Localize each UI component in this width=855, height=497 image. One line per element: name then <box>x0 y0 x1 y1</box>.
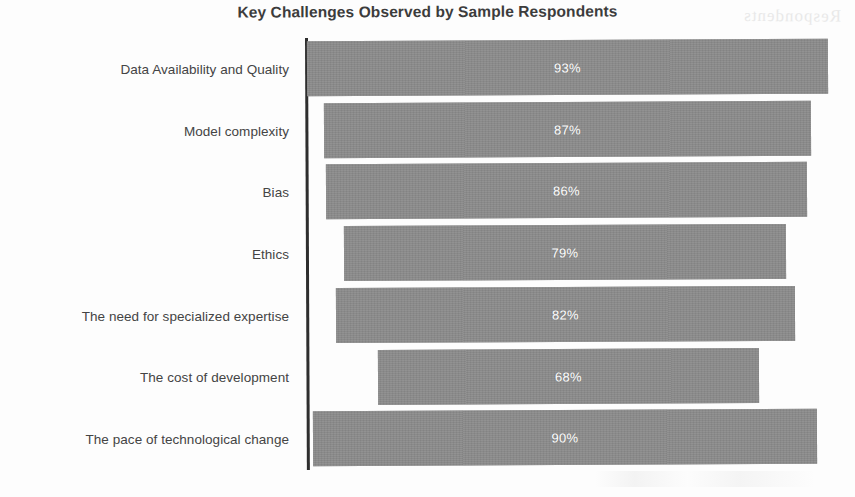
bar: 86% <box>326 162 807 219</box>
bar-rows: Data Availability and Quality93%Model co… <box>0 38 855 470</box>
bar-value-label: 82% <box>552 307 579 322</box>
bar: 87% <box>324 101 811 158</box>
bar: 93% <box>307 39 828 97</box>
bar: 82% <box>336 286 795 343</box>
bar-value-label: 93% <box>554 60 581 75</box>
category-label: The need for specialized expertise <box>82 308 289 323</box>
plot-area: Data Availability and Quality93%Model co… <box>0 30 855 480</box>
bar-row: Bias86% <box>0 161 855 223</box>
category-label: The pace of technological change <box>86 432 290 447</box>
bar-value-label: 90% <box>552 430 579 445</box>
bar-row: Model complexity87% <box>0 100 855 162</box>
bar-row: Ethics79% <box>0 223 855 285</box>
category-label: Model complexity <box>184 123 289 138</box>
bar-row: The need for specialized expertise82% <box>0 285 855 347</box>
bar-row: The cost of development68% <box>0 347 855 409</box>
bar-value-label: 68% <box>555 368 582 383</box>
bar: 90% <box>313 409 817 466</box>
category-label: Bias <box>263 185 289 200</box>
bar-value-label: 86% <box>553 183 580 198</box>
bar-value-label: 79% <box>552 245 579 260</box>
bar-value-label: 87% <box>554 122 581 137</box>
bar: 79% <box>344 224 786 281</box>
category-label: Data Availability and Quality <box>120 61 289 76</box>
category-label: The cost of development <box>140 370 289 385</box>
bar-row: Data Availability and Quality93% <box>0 38 855 100</box>
chart-page: Respondents Key Challenges Observed by S… <box>0 0 855 497</box>
category-label: Ethics <box>252 246 289 261</box>
bar-row: The pace of technological change90% <box>0 408 855 470</box>
bar: 68% <box>378 348 759 405</box>
chart-title: Key Challenges Observed by Sample Respon… <box>0 2 855 22</box>
